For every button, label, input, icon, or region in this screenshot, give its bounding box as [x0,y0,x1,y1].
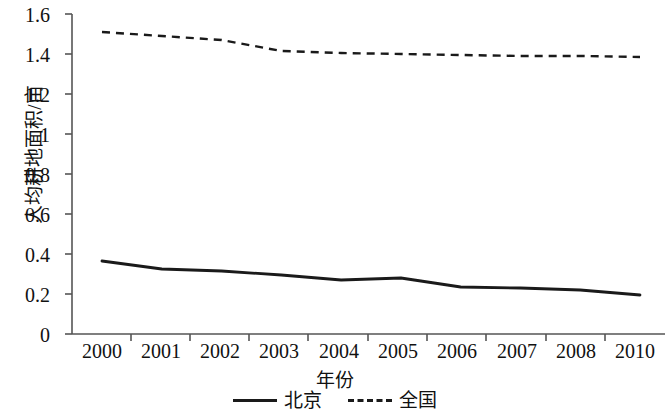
x-tick-label: 2000 [71,341,133,361]
solid-line-swatch-icon [233,399,277,402]
legend-label-national: 全国 [399,391,437,410]
series-line-national [102,32,640,57]
x-tick-label: 2003 [248,341,310,361]
x-tick-label: 2008 [545,341,607,361]
x-tick-label: 2005 [367,341,429,361]
chart-legend: 北京 全国 [0,391,669,410]
y-tick-marks [65,14,72,334]
x-tick-label: 2004 [308,341,370,361]
x-tick-label: 2010 [604,341,666,361]
x-tick-label: 2006 [426,341,488,361]
legend-item-beijing: 北京 [233,391,322,410]
chart-container: 人均耕地面积/亩 1.6 1.4 1.2 1 0.8 0.6 0.4 0.2 0 [0,0,669,414]
legend-label-beijing: 北京 [284,391,322,410]
x-tick-label: 2007 [486,341,548,361]
x-tick-label: 2002 [189,341,251,361]
x-axis-title: 年份 [0,365,669,392]
series-line-beijing [102,261,640,295]
dashed-line-swatch-icon [348,399,392,402]
legend-item-national: 全国 [348,391,437,410]
x-tick-label: 2001 [130,341,192,361]
